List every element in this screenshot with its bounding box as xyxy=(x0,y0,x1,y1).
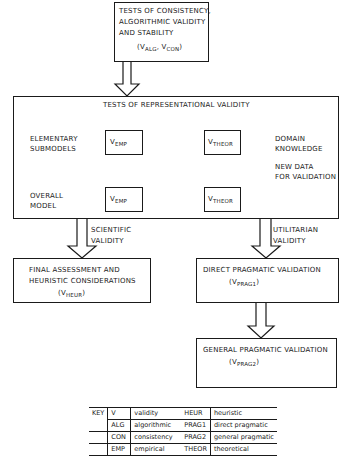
consistency-formula: (VALG, VCON) xyxy=(137,44,182,53)
key-table: KEY V validity HEUR heuristic ALG algori… xyxy=(89,407,277,456)
arrow-direct-to-general xyxy=(248,302,274,338)
general-formula: (VPRAG2) xyxy=(229,359,259,368)
direct-line: DIRECT PRAGMATIC VALIDATION xyxy=(203,267,321,274)
utilitarian-label-1: UTILITARIAN xyxy=(273,227,318,234)
consistency-line-1: TESTS OF CONSISTENCY, xyxy=(119,8,211,15)
key-row: KEY V validity HEUR heuristic xyxy=(89,408,277,420)
final-assessment-box: FINAL ASSESSMENT AND HEURISTIC CONSIDERA… xyxy=(13,258,151,303)
key-label: KEY xyxy=(89,408,108,420)
scientific-label-2: VALIDITY xyxy=(91,238,124,245)
label-overall: OVERALL xyxy=(30,193,63,200)
key-row: CON consistency PRAG2 general pragmatic xyxy=(89,432,277,444)
consistency-line-2: ALGORITHMIC VALIDITY xyxy=(119,19,205,26)
final-line-2: HEURISTIC CONSIDERATIONS xyxy=(29,278,136,285)
key-row: ALG algorithmic PRAG1 direct pragmatic xyxy=(89,420,277,432)
node-emp-elementary: VEMP xyxy=(105,130,143,155)
label-domain: DOMAIN xyxy=(275,136,305,143)
label-model: MODEL xyxy=(30,203,56,210)
node-theor-elementary: VTHEOR xyxy=(204,130,241,155)
key-row: EMP empirical THEOR theoretical xyxy=(89,444,277,456)
arrow-consistency-to-representational xyxy=(115,62,139,96)
label-for-validation: FOR VALIDATION xyxy=(275,174,336,181)
final-line-1: FINAL ASSESSMENT AND xyxy=(29,267,120,274)
label-new-data: NEW DATA xyxy=(275,164,313,171)
label-elementary: ELEMENTARY xyxy=(30,136,78,143)
label-submodels: SUBMODELS xyxy=(30,146,76,153)
representational-title: TESTS OF REPRESENTATIONAL VALIDITY xyxy=(103,102,250,109)
node-theor-overall: VTHEOR xyxy=(204,187,241,212)
direct-pragmatic-box: DIRECT PRAGMATIC VALIDATION (VPRAG1) xyxy=(196,258,339,303)
representational-validity-box: TESTS OF REPRESENTATIONAL VALIDITY ELEME… xyxy=(13,96,339,219)
direct-formula: (VPRAG1) xyxy=(229,279,259,288)
scientific-label-1: SCIENTIFIC xyxy=(91,227,131,234)
general-pragmatic-box: GENERAL PRAGMATIC VALIDATION (VPRAG2) xyxy=(196,338,337,388)
consistency-line-3: AND STABILITY xyxy=(119,30,174,37)
node-emp-overall: VEMP xyxy=(105,187,143,212)
label-knowledge: KNOWLEDGE xyxy=(275,146,323,153)
utilitarian-label-2: VALIDITY xyxy=(273,238,306,245)
final-formula: (VHEUR) xyxy=(58,290,85,299)
general-line: GENERAL PRAGMATIC VALIDATION xyxy=(203,347,328,354)
consistency-tests-box: TESTS OF CONSISTENCY, ALGORITHMIC VALIDI… xyxy=(114,2,209,62)
